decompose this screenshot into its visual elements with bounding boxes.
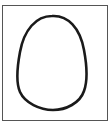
egg-shape-icon xyxy=(0,0,110,124)
